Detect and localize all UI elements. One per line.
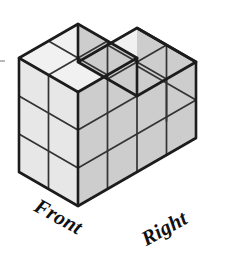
isometric-cube-drawing: [0, 0, 228, 272]
isometric-figure-root: Front Right: [0, 0, 228, 272]
